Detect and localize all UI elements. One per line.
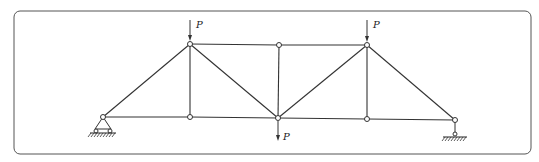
- roller-support-icon: [442, 120, 467, 141]
- truss-member-BF: [190, 44, 278, 118]
- truss-member-DF: [278, 45, 367, 118]
- pin-support-icon: [88, 117, 116, 137]
- joint-B: [188, 42, 193, 47]
- truss-member-AB: [103, 44, 190, 117]
- truss-diagram: P P P: [0, 0, 539, 162]
- load-arrow-icon: P: [365, 19, 380, 42]
- truss-members: [103, 44, 455, 120]
- joint-E: [188, 115, 193, 120]
- joint-A: [101, 115, 106, 120]
- load-label-f: P: [282, 131, 290, 142]
- load-arrow-icon: P: [188, 19, 203, 41]
- truss-member-FG: [278, 118, 367, 119]
- truss-member-CF: [278, 45, 279, 118]
- truss-member-BC: [190, 44, 279, 45]
- joint-C: [277, 43, 282, 48]
- load-arrow-icon: P: [276, 121, 290, 142]
- joint-G: [365, 117, 370, 122]
- load-label-d: P: [372, 19, 380, 30]
- truss-member-GH: [367, 119, 455, 120]
- joint-F: [276, 116, 281, 121]
- loads: P P P: [188, 19, 380, 142]
- truss-member-DH: [367, 45, 455, 120]
- joint-H: [453, 118, 458, 123]
- load-label-b: P: [195, 19, 203, 30]
- truss-member-EF: [190, 117, 278, 118]
- joint-D: [365, 43, 370, 48]
